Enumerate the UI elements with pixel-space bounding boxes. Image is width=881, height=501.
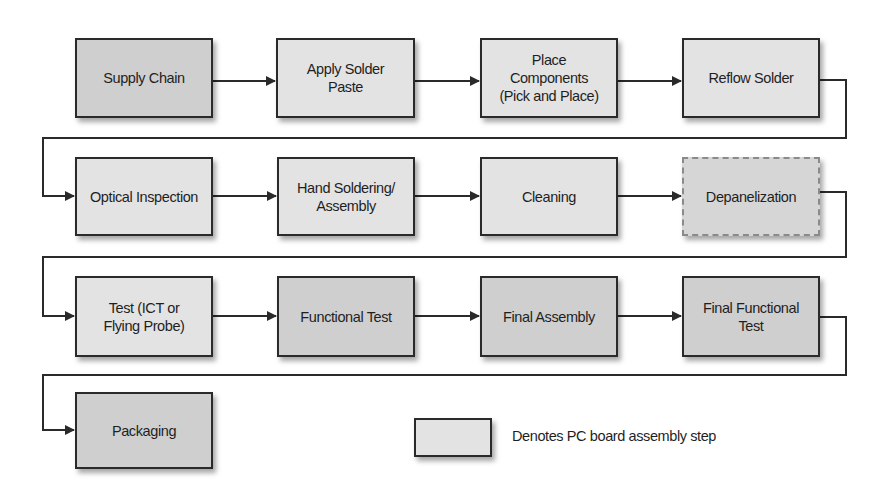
step-label: Apply Solder Paste [307, 60, 384, 96]
step-label: Place Components (Pick and Place) [499, 51, 598, 105]
step-reflow-solder: Reflow Solder [682, 38, 820, 118]
step-depanelization: Depanelization [682, 157, 820, 236]
step-label: Functional Test [300, 308, 391, 326]
step-label: Final Assembly [503, 308, 595, 326]
step-label: Optical Inspection [90, 188, 198, 206]
step-final-assembly: Final Assembly [480, 276, 618, 357]
legend-swatch [414, 418, 492, 457]
step-optical-inspection: Optical Inspection [75, 157, 213, 236]
step-final-functional-test: Final Functional Test [682, 276, 820, 357]
step-hand-soldering: Hand Soldering/ Assembly [277, 157, 415, 236]
step-place-components: Place Components (Pick and Place) [480, 38, 618, 118]
step-test-ict-flying-probe: Test (ICT or Flying Probe) [75, 276, 213, 357]
step-apply-solder-paste: Apply Solder Paste [276, 38, 415, 118]
step-functional-test: Functional Test [277, 276, 415, 357]
step-label: Depanelization [706, 188, 796, 206]
step-label: Test (ICT or Flying Probe) [103, 299, 184, 335]
legend-label: Denotes PC board assembly step [512, 428, 716, 444]
step-cleaning: Cleaning [480, 157, 618, 236]
step-supply-chain: Supply Chain [75, 38, 213, 118]
step-label: Cleaning [522, 188, 576, 206]
step-label: Supply Chain [103, 69, 184, 87]
step-packaging: Packaging [75, 392, 213, 469]
step-label: Packaging [112, 422, 176, 440]
step-label: Final Functional Test [703, 299, 799, 335]
step-label: Hand Soldering/ Assembly [297, 179, 395, 215]
step-label: Reflow Solder [708, 69, 793, 87]
